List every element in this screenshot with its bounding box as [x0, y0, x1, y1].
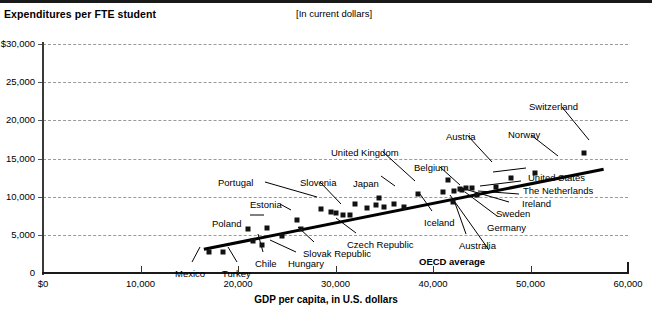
chart-units-note: [In current dollars] — [296, 8, 372, 19]
data-marker — [470, 186, 475, 191]
point-label: Ireland — [522, 198, 551, 209]
point-label: Sweden — [496, 208, 530, 219]
point-label: Portugal — [218, 177, 253, 188]
point-label: United States — [528, 172, 585, 183]
chart-figure: Expenditures per FTE student [In current… — [0, 0, 652, 312]
point-label: Chile — [255, 258, 277, 269]
point-label: Slovenia — [300, 177, 336, 188]
point-label: Iceland — [424, 217, 455, 228]
point-label: Estonia — [250, 199, 282, 210]
data-marker — [582, 151, 587, 156]
data-marker — [353, 202, 358, 207]
data-marker — [401, 205, 406, 210]
point-label: United Kingdom — [331, 147, 399, 158]
data-marker — [333, 210, 338, 215]
data-marker — [445, 177, 450, 182]
chart-title: Expenditures per FTE student — [4, 8, 156, 20]
data-marker — [206, 249, 211, 254]
x-tick-mark — [531, 266, 532, 273]
y-tick-label: 5,000 — [11, 229, 35, 240]
y-tick-label: 10,000 — [6, 191, 35, 202]
point-label: Switzerland — [529, 101, 578, 112]
data-marker — [348, 212, 353, 217]
x-tick-label: 60,000 — [613, 278, 642, 289]
oecd-average-trendline — [0, 0, 652, 312]
y-axis-line — [42, 42, 44, 275]
data-marker — [279, 233, 284, 238]
gridline — [43, 235, 628, 236]
data-marker — [464, 185, 469, 190]
data-marker — [416, 191, 421, 196]
data-marker — [440, 190, 445, 195]
x-axis-title: GDP per capita, in U.S. dollars — [0, 294, 652, 305]
data-marker — [221, 249, 226, 254]
data-marker — [260, 242, 265, 247]
data-marker — [341, 212, 346, 217]
data-marker — [374, 203, 379, 208]
data-marker — [294, 217, 299, 222]
x-tick-mark — [433, 266, 434, 273]
point-label: Hungary — [288, 258, 324, 269]
point-label: The Netherlands — [523, 185, 593, 196]
data-marker — [250, 238, 255, 243]
point-label: Austria — [446, 131, 476, 142]
data-marker — [318, 206, 323, 211]
data-marker — [458, 187, 463, 192]
data-marker — [509, 175, 514, 180]
data-marker — [382, 204, 387, 209]
gridline — [43, 120, 628, 121]
point-label: Japan — [353, 178, 379, 189]
point-label: Belgium — [414, 162, 448, 173]
data-marker — [474, 193, 479, 198]
label-leader-lines — [0, 0, 652, 312]
data-marker — [377, 196, 382, 201]
x-axis-end-cap — [627, 262, 629, 274]
y-tick-label: 0 — [30, 267, 35, 278]
data-marker — [494, 184, 499, 189]
data-marker — [364, 206, 369, 211]
point-label: Czech Republic — [347, 239, 414, 250]
data-marker — [245, 227, 250, 232]
point-label: Poland — [212, 218, 242, 229]
point-label: Norway — [508, 129, 540, 140]
x-tick-label: 50,000 — [516, 278, 545, 289]
x-tick-label: 20,000 — [223, 278, 252, 289]
point-label: OECD average — [419, 256, 485, 267]
data-marker — [450, 200, 455, 205]
y-tick-label: 25,000 — [6, 76, 35, 87]
x-tick-mark — [141, 266, 142, 273]
data-marker — [452, 188, 457, 193]
point-label: Australia — [459, 240, 496, 251]
gridline — [43, 159, 628, 160]
data-marker — [392, 201, 397, 206]
x-tick-mark — [336, 266, 337, 273]
data-marker — [299, 226, 304, 231]
gridline — [43, 44, 628, 45]
y-tick-label: 15,000 — [6, 153, 35, 164]
x-tick-label: $0 — [38, 278, 49, 289]
data-marker — [265, 225, 270, 230]
gridline — [43, 82, 628, 83]
x-tick-label: 40,000 — [418, 278, 447, 289]
x-tick-label: 30,000 — [321, 278, 350, 289]
y-tick-label: 20,000 — [6, 114, 35, 125]
top-rule — [0, 0, 652, 3]
y-tick-label: $30,000 — [1, 38, 35, 49]
point-label: Germany — [487, 222, 526, 233]
point-label: Mexico — [175, 268, 205, 279]
x-tick-label: 10,000 — [126, 278, 155, 289]
point-label: Turkey — [222, 268, 251, 279]
